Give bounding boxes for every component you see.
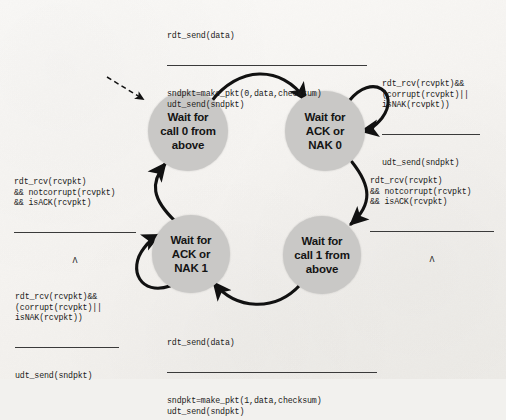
transition-label-ack0-to-call1: rdt_rcv(rcvpkt) && notcorrupt(rcvpkt) &&… xyxy=(370,155,504,287)
state-wait-ack-nak-1[interactable]: Wait for ACK or NAK 1 xyxy=(152,215,230,293)
transition-divider xyxy=(370,231,494,232)
transition-label-call1-to-ack1: rdt_send(data) sndpkt=make_pkt(1,data,ch… xyxy=(167,317,377,420)
transition-condition: rdt_send(data) xyxy=(167,31,367,43)
start-arrow xyxy=(107,77,143,99)
transition-divider xyxy=(15,347,119,348)
transition-condition: rdt_rcv(rcvpkt) && notcorrupt(rcvpkt) &&… xyxy=(370,176,504,209)
transition-action: sndpkt=make_pkt(1,data,checksum) udt_sen… xyxy=(167,396,377,417)
transition-divider xyxy=(167,65,367,66)
transition-label-ack1-self-loop: rdt_rcv(rcvpkt)&& (corrupt(rcvpkt)|| isN… xyxy=(15,271,140,403)
arrow-call1-to-ack1 xyxy=(214,283,300,304)
arrow-ack0-to-call1 xyxy=(351,162,367,224)
transition-action: Λ xyxy=(370,255,494,266)
transition-divider xyxy=(14,232,136,233)
state-wait-call-1-label: Wait for call 1 from above xyxy=(291,234,352,276)
transition-divider xyxy=(167,372,377,373)
transition-condition: rdt_rcv(rcvpkt) && notcorrupt(rcvpkt) &&… xyxy=(14,177,144,210)
transition-action: Λ xyxy=(14,256,136,267)
transition-action: sndpkt=make_pkt(0,data,checksum) udt_sen… xyxy=(167,89,367,110)
transition-condition: rdt_send(data) xyxy=(167,338,377,350)
state-wait-ack-nak-1-label: Wait for ACK or NAK 1 xyxy=(168,233,215,275)
transition-label-call0-to-ack0: rdt_send(data) sndpkt=make_pkt(0,data,ch… xyxy=(167,10,367,132)
state-wait-call-1[interactable]: Wait for call 1 from above xyxy=(283,216,361,294)
transition-divider xyxy=(382,134,480,135)
transition-label-ack1-to-call0: rdt_rcv(rcvpkt) && notcorrupt(rcvpkt) &&… xyxy=(14,156,144,288)
arrow-ack1-to-call0 xyxy=(155,164,175,221)
transition-condition: rdt_rcv(rcvpkt)&& (corrupt(rcvpkt)|| isN… xyxy=(15,292,140,325)
transition-action: udt_send(sndpkt) xyxy=(15,371,140,382)
transition-condition: rdt_rcv(rcvpkt)&& (corrupt(rcvpkt)|| isN… xyxy=(382,79,502,112)
